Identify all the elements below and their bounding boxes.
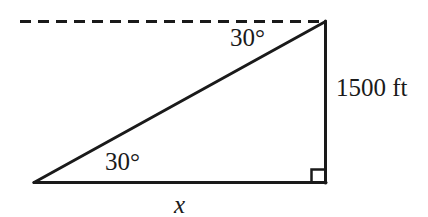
- angle-of-depression-label: 30°: [230, 25, 265, 50]
- hypotenuse-line: [34, 22, 326, 183]
- triangle-diagram-svg: [0, 0, 428, 217]
- geometry-figure: 30° 30° 1500 ft x: [0, 0, 428, 217]
- right-angle-marker-icon: [312, 170, 325, 182]
- horizontal-side-variable-label: x: [174, 192, 185, 217]
- angle-of-elevation-label: 30°: [105, 149, 140, 174]
- vertical-side-length-label: 1500 ft: [336, 75, 408, 100]
